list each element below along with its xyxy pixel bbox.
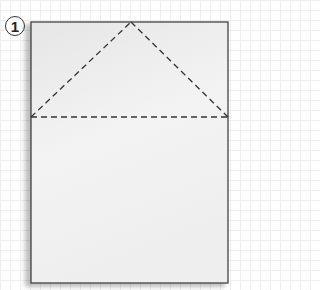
origami-paper-diagram [0, 0, 237, 290]
paper-sheet [31, 22, 228, 283]
